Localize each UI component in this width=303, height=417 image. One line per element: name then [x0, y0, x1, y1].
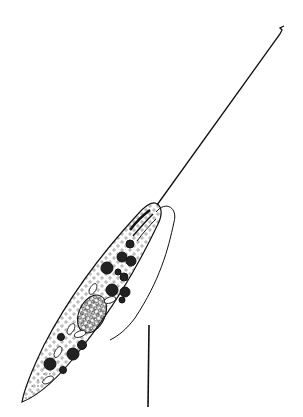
flagellum [157, 26, 284, 205]
scale-bar [148, 325, 149, 407]
protist-illustration [0, 0, 303, 417]
